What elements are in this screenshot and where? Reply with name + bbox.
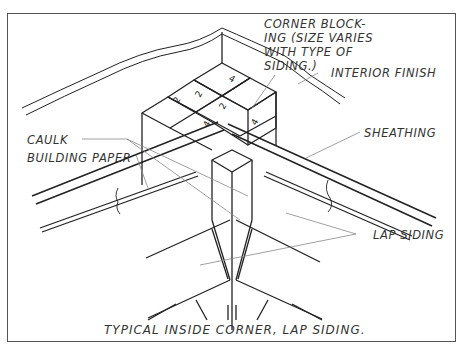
corner-blocking-line-1: CORNER BLOCK- [264, 17, 373, 31]
svg-text:2: 2 [217, 101, 229, 111]
building-paper-label: BUILDING PAPER [27, 151, 131, 165]
corner-blocking-line-3: WITH TYPE OF [264, 45, 373, 59]
interior-finish-label: INTERIOR FINISH [331, 66, 436, 80]
svg-text:4: 4 [227, 73, 237, 85]
corner-blocking-label: CORNER BLOCK- ING (SIZE VARIES WITH TYPE… [264, 17, 373, 73]
inside-corner-drawing: 4 2 2 2 4 4 [0, 0, 467, 350]
sheathing-label: SHEATHING [364, 126, 436, 140]
svg-text:2: 2 [193, 89, 205, 99]
corner-blocking-line-2: ING (SIZE VARIES [264, 31, 373, 45]
caulk-label: CAULK [27, 133, 68, 147]
lap-siding-label: LAP SIDING [373, 228, 444, 242]
figure-caption: TYPICAL INSIDE CORNER, LAP SIDING. [104, 323, 366, 337]
